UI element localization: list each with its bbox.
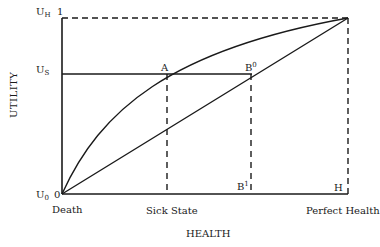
us-label: US <box>36 65 49 75</box>
diagonal-line <box>62 18 348 194</box>
one-label: 1 <box>57 7 63 17</box>
sick-state-label: Sick State <box>146 206 198 216</box>
x-axis-label: HEALTH <box>186 229 230 239</box>
y-axis-label: UTILITY <box>8 72 19 118</box>
point-b0-label: B0 <box>245 63 257 73</box>
u0-label: U0 <box>36 190 49 200</box>
point-h-label: H <box>334 183 343 193</box>
death-label: Death <box>52 205 82 215</box>
zero-label: 0 <box>54 190 60 200</box>
perfect-health-label: Perfect Health <box>306 206 380 216</box>
uh-label: UH <box>36 7 51 17</box>
point-a-label: A <box>161 63 168 73</box>
point-b1-label: B1 <box>237 182 249 192</box>
